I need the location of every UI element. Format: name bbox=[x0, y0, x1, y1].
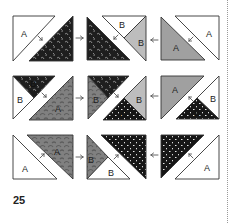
page-edge-dotted-line bbox=[227, 0, 228, 223]
label-b: B bbox=[138, 38, 144, 48]
arrow-left-icon bbox=[151, 94, 158, 98]
label-a: A bbox=[172, 85, 178, 95]
arrow-right-icon bbox=[76, 36, 83, 40]
label-b: B bbox=[121, 109, 127, 119]
label-b: B bbox=[194, 108, 200, 118]
label-b: B bbox=[88, 155, 94, 165]
block-r3-right bbox=[161, 135, 219, 179]
label-a: A bbox=[54, 147, 60, 157]
arrow-left-icon bbox=[151, 153, 158, 157]
arrow-down-right-icon bbox=[42, 93, 46, 97]
arrow-right-icon bbox=[76, 96, 83, 100]
label-b: B bbox=[30, 79, 36, 89]
page-number: 25 bbox=[13, 194, 25, 206]
label-a: A bbox=[55, 104, 61, 114]
arrow-down-left-icon bbox=[114, 35, 118, 39]
label-b: B bbox=[17, 95, 23, 105]
arrow-right-icon bbox=[76, 155, 83, 159]
arrow-down-left-icon bbox=[189, 37, 193, 41]
label-b: B bbox=[136, 95, 142, 105]
label-a: A bbox=[21, 29, 27, 39]
arrow-up-left-icon bbox=[189, 154, 193, 158]
label-a: A bbox=[22, 164, 28, 174]
row-2 bbox=[13, 76, 219, 120]
quilt-block-assembly-diagram: A B B A A B B A B B B A B B A A B B A bbox=[0, 0, 231, 223]
label-b: B bbox=[108, 168, 114, 178]
label-a: A bbox=[204, 163, 210, 173]
arrow-up-left-icon bbox=[189, 97, 193, 101]
label-b: B bbox=[119, 20, 125, 30]
arrow-left-icon bbox=[151, 38, 158, 42]
arrow-up-right-icon bbox=[114, 155, 118, 159]
label-a: A bbox=[206, 29, 212, 39]
label-b: B bbox=[210, 94, 216, 104]
label-a: A bbox=[173, 43, 179, 53]
label-b: B bbox=[93, 95, 99, 105]
arrow-up-right-icon bbox=[40, 154, 44, 158]
row-1 bbox=[13, 16, 219, 61]
arrow-down-right-icon bbox=[114, 93, 118, 97]
arrow-down-right-icon bbox=[38, 36, 42, 40]
